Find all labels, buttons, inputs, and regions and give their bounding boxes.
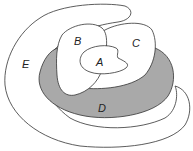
label-B: B [74,35,81,47]
label-C: C [132,37,140,49]
diagram-canvas: E D C B A [0,0,193,151]
euler-diagram: E D C B A [0,0,193,151]
label-D: D [98,102,106,114]
label-A: A [95,56,103,68]
label-E: E [22,58,30,70]
